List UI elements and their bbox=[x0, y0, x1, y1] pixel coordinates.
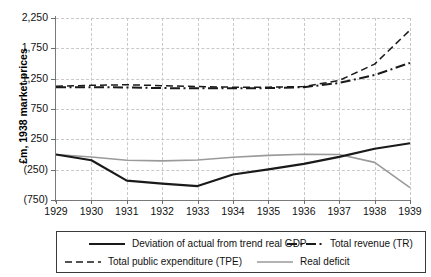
legend-key-icon-real_deficit bbox=[257, 256, 293, 268]
legend-label: Total public expenditure (TPE) bbox=[108, 256, 242, 267]
legend-key-icon-tr bbox=[287, 238, 323, 250]
x-tick bbox=[127, 200, 128, 204]
y-tick-label: 250 bbox=[4, 132, 48, 144]
legend-item-tpe[interactable]: Total public expenditure (TPE) bbox=[65, 253, 242, 270]
legend-item-gdp_deviation[interactable]: Deviation of actual from trend real GDP bbox=[89, 235, 307, 252]
x-tick-label: 1932 bbox=[142, 205, 182, 217]
legend-item-real_deficit[interactable]: Real deficit bbox=[257, 253, 349, 270]
legend-key-icon-gdp_deviation bbox=[89, 238, 125, 250]
gridline-right bbox=[410, 18, 411, 200]
y-tick-label: 750 bbox=[4, 102, 48, 114]
legend-label: Total revenue (TR) bbox=[330, 238, 413, 249]
x-tick bbox=[339, 200, 340, 204]
y-tick-label: 1,750 bbox=[4, 41, 48, 53]
x-tick bbox=[198, 200, 199, 204]
legend-label: Deviation of actual from trend real GDP bbox=[132, 238, 307, 249]
series-line-tpe bbox=[56, 30, 410, 87]
x-tick-label: 1931 bbox=[107, 205, 147, 217]
x-tick bbox=[233, 200, 234, 204]
x-tick bbox=[91, 200, 92, 204]
x-tick-label: 1939 bbox=[390, 205, 430, 217]
x-tick-label: 1929 bbox=[36, 205, 76, 217]
x-tick bbox=[56, 200, 57, 204]
legend-key-icon-tpe bbox=[65, 256, 101, 268]
chart-figure: £m, 1938 market prices (750)(250)2507501… bbox=[0, 0, 431, 277]
series-line-tr bbox=[56, 63, 410, 88]
legend-item-tr[interactable]: Total revenue (TR) bbox=[287, 235, 413, 252]
x-tick-label: 1933 bbox=[178, 205, 218, 217]
x-tick bbox=[304, 200, 305, 204]
x-tick bbox=[410, 200, 411, 204]
y-tick-label: 2,250 bbox=[4, 11, 48, 23]
data-lines bbox=[56, 18, 410, 200]
x-tick-label: 1934 bbox=[213, 205, 253, 217]
x-tick-label: 1938 bbox=[355, 205, 395, 217]
x-tick bbox=[162, 200, 163, 204]
legend-label: Real deficit bbox=[300, 256, 349, 267]
series-line-gdp_deviation bbox=[56, 143, 410, 186]
x-tick-label: 1936 bbox=[284, 205, 324, 217]
y-tick-label: (750) bbox=[4, 193, 48, 205]
x-tick bbox=[375, 200, 376, 204]
x-tick-label: 1930 bbox=[71, 205, 111, 217]
chart-legend: Deviation of actual from trend real GDPT… bbox=[56, 231, 426, 273]
x-tick-label: 1937 bbox=[319, 205, 359, 217]
x-tick bbox=[268, 200, 269, 204]
y-tick-label: 1,250 bbox=[4, 72, 48, 84]
x-tick-label: 1935 bbox=[248, 205, 288, 217]
y-tick-label: (250) bbox=[4, 163, 48, 175]
plot-area bbox=[56, 18, 410, 200]
